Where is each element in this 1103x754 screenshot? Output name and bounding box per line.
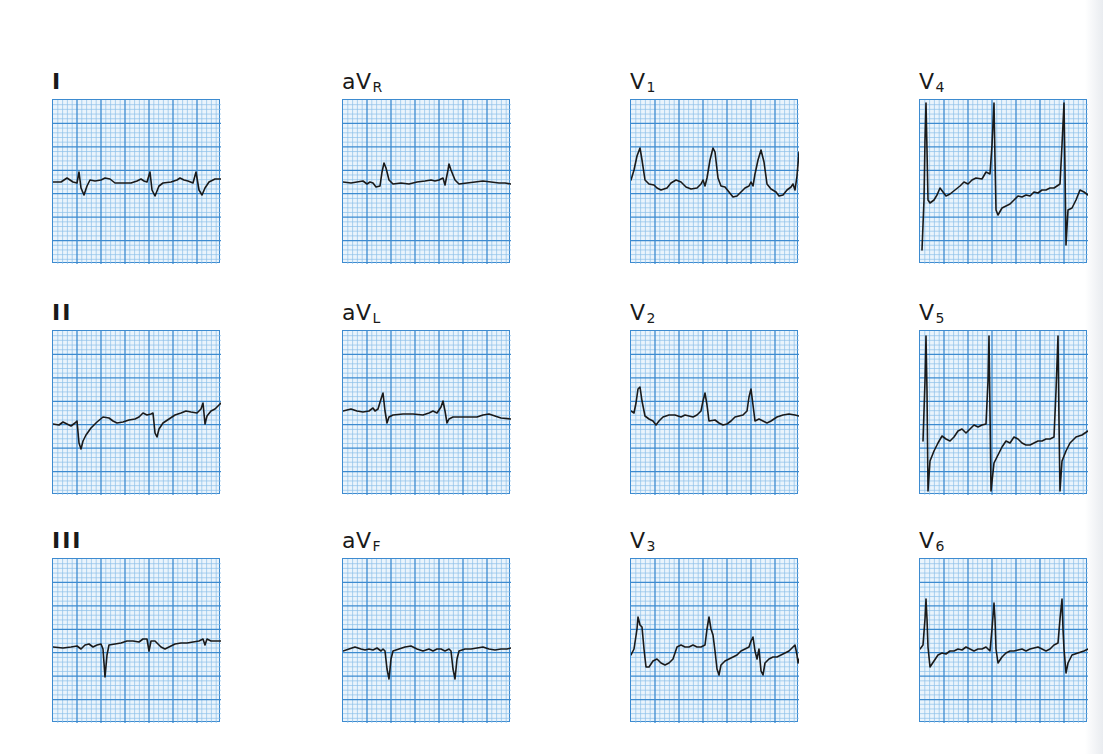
- ecg-waveform: [631, 148, 799, 197]
- lead-label-main: V: [630, 300, 646, 325]
- lead-label-main: aV: [342, 300, 372, 325]
- ecg-grid-paper: [52, 330, 220, 494]
- ecg-trace-plot: [343, 100, 511, 264]
- lead-label: III: [52, 530, 83, 552]
- ecg-grid-paper: [342, 330, 510, 494]
- lead-label-main: I: [52, 69, 62, 94]
- lead-label: aVR: [342, 71, 383, 98]
- ecg-trace-plot: [631, 100, 799, 264]
- lead-label-subscript: 5: [936, 310, 945, 326]
- ecg-trace-plot: [53, 331, 221, 495]
- ecg-trace-plot: [631, 559, 799, 723]
- ecg-waveform: [631, 617, 799, 675]
- lead-label-main: II: [52, 300, 72, 325]
- ecg-grid-paper: [52, 99, 220, 263]
- lead-label-main: V: [919, 69, 935, 94]
- lead-label: aVL: [342, 302, 381, 329]
- lead-label: V4: [919, 71, 945, 98]
- lead-label: I: [52, 71, 62, 93]
- ecg-trace-plot: [920, 331, 1088, 495]
- ecg-grid-paper: [919, 330, 1087, 494]
- lead-label-main: V: [919, 528, 935, 553]
- ecg-grid-paper: [52, 558, 220, 722]
- lead-label: V6: [919, 530, 945, 557]
- ecg-trace-plot: [631, 331, 799, 495]
- ecg-waveform: [343, 393, 511, 423]
- ecg-trace-plot: [53, 559, 221, 723]
- lead-label-subscript: 3: [647, 538, 656, 554]
- ecg-trace-plot: [343, 559, 511, 723]
- ecg-trace-plot: [53, 100, 221, 264]
- ecg-trace-plot: [920, 559, 1088, 723]
- lead-label-subscript: 6: [936, 538, 945, 554]
- lead-label-subscript: F: [373, 538, 382, 554]
- ecg-grid-paper: [342, 99, 510, 263]
- lead-label-main: aV: [342, 69, 372, 94]
- ecg-waveform: [343, 646, 511, 679]
- ecg-grid-paper: [342, 558, 510, 722]
- lead-label: V2: [630, 302, 656, 329]
- ecg-trace-plot: [343, 331, 511, 495]
- lead-label: II: [52, 302, 72, 324]
- lead-label-main: III: [52, 528, 83, 553]
- lead-label: V3: [630, 530, 656, 557]
- ecg-waveform: [53, 403, 221, 449]
- lead-label-subscript: L: [373, 310, 381, 326]
- lead-label-main: aV: [342, 528, 372, 553]
- lead-label-main: V: [919, 300, 935, 325]
- lead-label: V5: [919, 302, 945, 329]
- ecg-grid-paper: [919, 558, 1087, 722]
- ecg-grid-paper: [630, 99, 798, 263]
- lead-label-subscript: R: [373, 79, 383, 95]
- lead-label-subscript: 1: [647, 79, 656, 95]
- lead-label-main: V: [630, 528, 646, 553]
- ecg-trace-plot: [920, 100, 1088, 264]
- lead-label-main: V: [630, 69, 646, 94]
- ecg-grid-paper: [919, 99, 1087, 263]
- lead-label-subscript: 4: [936, 79, 945, 95]
- lead-label: aVF: [342, 530, 381, 557]
- ecg-grid-paper: [630, 558, 798, 722]
- ecg-waveform: [922, 103, 1088, 250]
- lead-label: V1: [630, 71, 656, 98]
- ecg-grid-paper: [630, 330, 798, 494]
- lead-label-subscript: 2: [647, 310, 656, 326]
